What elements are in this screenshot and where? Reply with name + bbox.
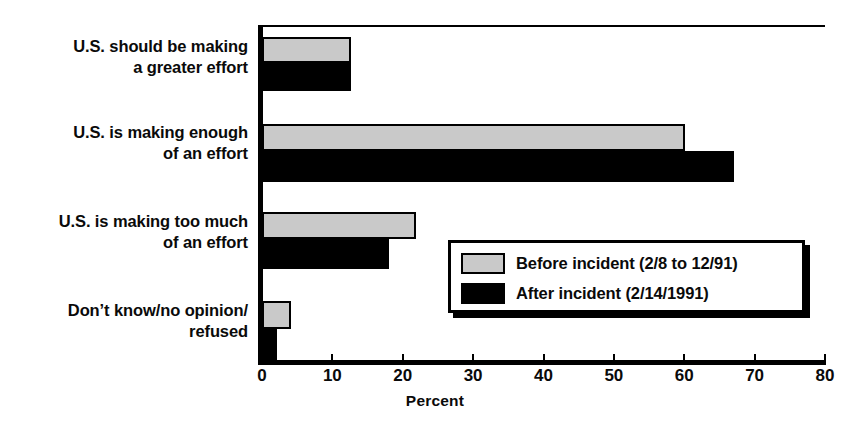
legend-label-after: After incident (2/14/1991) bbox=[516, 284, 709, 303]
category-label-1: U.S. is making enough of an effort bbox=[73, 122, 248, 163]
bar-before-2 bbox=[262, 212, 416, 239]
category-label-0: U.S. should be making a greater effort bbox=[73, 36, 248, 77]
x-axis-tick-label-20: 20 bbox=[393, 366, 412, 386]
legend-label-before: Before incident (2/8 to 12/91) bbox=[516, 254, 738, 273]
bar-after-3 bbox=[262, 329, 277, 360]
bar-after-2 bbox=[262, 239, 389, 269]
x-axis-tick-70 bbox=[754, 354, 756, 365]
x-axis-title: Percent bbox=[0, 392, 852, 410]
x-axis-tick-0 bbox=[261, 354, 263, 365]
x-axis-tick-10 bbox=[331, 354, 333, 365]
bar-before-3 bbox=[262, 301, 291, 329]
x-axis-tick-label-70: 70 bbox=[745, 366, 764, 386]
legend: Before incident (2/8 to 12/91) After inc… bbox=[448, 240, 805, 313]
x-axis-tick-label-30: 30 bbox=[464, 366, 483, 386]
bar-after-0 bbox=[262, 63, 351, 91]
x-axis-tick-50 bbox=[613, 354, 615, 365]
bar-before-1 bbox=[262, 124, 685, 151]
category-label-2: U.S. is making too much of an effort bbox=[59, 211, 248, 252]
legend-item-before: Before incident (2/8 to 12/91) bbox=[461, 248, 802, 278]
x-axis-tick-label-10: 10 bbox=[323, 366, 342, 386]
legend-swatch-after-icon bbox=[461, 283, 505, 304]
legend-swatch-before-icon bbox=[461, 253, 505, 274]
x-axis-tick-label-60: 60 bbox=[675, 366, 694, 386]
chart-figure: U.S. should be making a greater effort U… bbox=[0, 0, 852, 436]
bar-after-1 bbox=[262, 151, 734, 182]
x-axis-tick-label-80: 80 bbox=[816, 366, 835, 386]
legend-item-after: After incident (2/14/1991) bbox=[461, 278, 802, 308]
x-axis-tick-label-40: 40 bbox=[534, 366, 553, 386]
x-axis-tick-label-0: 0 bbox=[257, 366, 266, 386]
x-axis-tick-80 bbox=[824, 354, 826, 365]
x-axis-tick-30 bbox=[472, 354, 474, 365]
x-axis-tick-label-50: 50 bbox=[604, 366, 623, 386]
x-axis-tick-20 bbox=[402, 354, 404, 365]
x-axis-tick-40 bbox=[543, 354, 545, 365]
x-axis-tick-60 bbox=[683, 354, 685, 365]
bar-before-0 bbox=[262, 37, 351, 63]
category-label-3: Don’t know/no opinion/ refused bbox=[68, 300, 248, 341]
x-axis-title-text: Percent bbox=[406, 392, 464, 410]
